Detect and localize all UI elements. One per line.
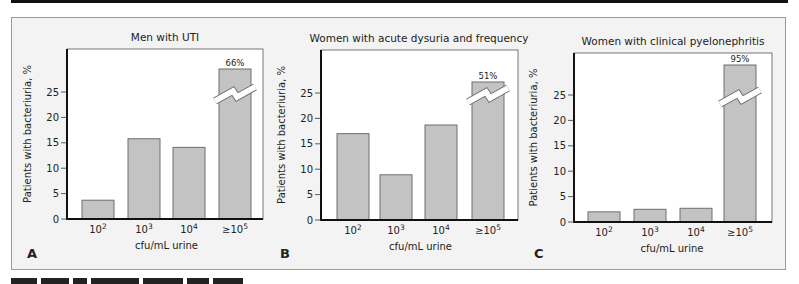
y-tick-label: 0 <box>53 214 59 225</box>
chart-panel-c: Women with clinical pyelonephritis102103… <box>528 35 772 261</box>
figure-caption-clipped <box>11 278 311 284</box>
y-tick-label: 5 <box>53 188 59 199</box>
bar-charts: Men with UTI10210310466%≥1050510152025Pa… <box>0 0 799 284</box>
x-tick-label: ≥105 <box>222 222 248 235</box>
x-tick-label: 103 <box>135 222 153 235</box>
x-axis-title: cfu/mL urine <box>641 243 704 254</box>
x-tick-label: ≥105 <box>727 225 753 238</box>
bar-3 <box>425 125 457 220</box>
chart-panel-b: Women with acute dysuria and frequency10… <box>276 32 529 261</box>
y-tick-label: 10 <box>553 166 566 177</box>
x-axis-title: cfu/mL urine <box>135 240 198 251</box>
bar-1 <box>82 200 114 219</box>
y-tick-label: 15 <box>553 140 566 151</box>
bar-2 <box>634 209 666 222</box>
y-tick-label: 25 <box>300 88 313 99</box>
bar-2 <box>380 175 412 220</box>
y-tick-label: 0 <box>560 217 566 228</box>
y-tick-label: 25 <box>46 87 59 98</box>
x-tick-label: 104 <box>687 225 705 238</box>
x-tick-label: 103 <box>387 223 405 236</box>
chart-title: Women with clinical pyelonephritis <box>582 35 765 47</box>
bar-1 <box>337 134 369 220</box>
y-tick-label: 15 <box>300 138 313 149</box>
x-axis-title: cfu/mL urine <box>389 241 452 252</box>
x-tick-label: ≥105 <box>475 223 501 236</box>
x-tick-label: 104 <box>432 223 450 236</box>
y-tick-label: 5 <box>560 191 566 202</box>
bar-value-label: 95% <box>731 54 750 64</box>
y-tick-label: 20 <box>300 113 313 124</box>
x-tick-label: 103 <box>641 225 659 238</box>
y-axis-title: Patients with bacteriuria, % <box>276 66 287 204</box>
bar-value-label: 51% <box>479 71 498 81</box>
bar-2 <box>128 139 160 219</box>
bar-1 <box>588 212 620 222</box>
x-tick-label: 102 <box>89 222 107 235</box>
bar-value-label: 66% <box>226 58 245 68</box>
bar-4 <box>472 82 504 220</box>
bar-4 <box>724 65 756 222</box>
chart-title: Women with acute dysuria and frequency <box>309 32 528 44</box>
y-tick-label: 15 <box>46 137 59 148</box>
y-tick-label: 10 <box>46 163 59 174</box>
x-tick-label: 102 <box>344 223 362 236</box>
chart-title: Men with UTI <box>131 31 199 43</box>
y-tick-label: 20 <box>46 112 59 123</box>
bar-3 <box>680 208 712 222</box>
y-tick-label: 5 <box>307 189 313 200</box>
y-tick-label: 20 <box>553 115 566 126</box>
x-tick-label: 102 <box>595 225 613 238</box>
y-axis-title: Patients with bacteriuria, % <box>22 65 33 203</box>
y-tick-label: 25 <box>553 90 566 101</box>
panel-letter: C <box>534 246 544 261</box>
y-tick-label: 0 <box>307 215 313 226</box>
y-axis-title: Patients with bacteriuria, % <box>528 69 539 207</box>
chart-panel-a: Men with UTI10210310466%≥1050510152025Pa… <box>22 31 263 261</box>
x-tick-label: 104 <box>180 222 198 235</box>
panel-letter: B <box>280 246 290 261</box>
bar-3 <box>173 147 205 219</box>
panel-letter: A <box>27 246 37 261</box>
y-tick-label: 10 <box>300 164 313 175</box>
